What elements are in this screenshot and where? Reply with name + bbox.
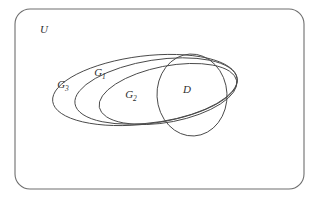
set-label-g3-subscript: 3: [64, 83, 69, 92]
set-label-g2: G2: [125, 88, 137, 103]
set-label-g2-base: G: [125, 88, 133, 100]
venn-diagram-svg: U G3 G1 G2 D: [0, 0, 319, 198]
set-label-d-base: D: [182, 83, 191, 95]
set-label-d: D: [182, 83, 191, 95]
set-label-g3-base: G: [57, 78, 65, 90]
set-label-g2-subscript: 2: [133, 93, 137, 102]
set-label-g1-base: G: [94, 66, 102, 78]
universe-label: U: [40, 23, 49, 35]
set-ellipse-g3: [49, 45, 242, 135]
diagram-canvas: U G3 G1 G2 D: [0, 0, 319, 198]
universe-rectangle: [15, 9, 304, 189]
set-label-g1-subscript: 1: [102, 71, 106, 80]
set-ellipse-d: [155, 52, 229, 138]
